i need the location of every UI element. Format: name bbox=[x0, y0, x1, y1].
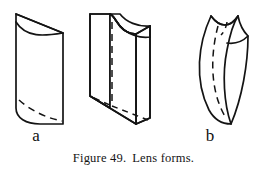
lens-b-right-face bbox=[136, 26, 150, 124]
figure-caption-text: Lens forms. bbox=[132, 151, 194, 165]
lens-b-back-face bbox=[90, 14, 110, 108]
figure-caption: Figure 49.Lens forms. bbox=[0, 150, 267, 166]
lens-form-b: b bbox=[82, 0, 168, 128]
panel-label-a: a bbox=[0, 126, 72, 146]
figure-plate: a b bbox=[0, 0, 267, 173]
lens-c-body bbox=[199, 16, 238, 124]
lens-form-c: c bbox=[182, 0, 267, 128]
meniscus-lens-drawing bbox=[182, 0, 267, 128]
lens-form-a: a bbox=[0, 0, 88, 128]
plano-convex-lens-drawing bbox=[0, 0, 88, 128]
lens-c-right-outer-flank bbox=[231, 36, 248, 124]
panel-label-b: b bbox=[174, 126, 246, 146]
figure-caption-number: Figure 49. bbox=[73, 151, 126, 165]
concave-faced-lens-drawing bbox=[82, 0, 168, 128]
